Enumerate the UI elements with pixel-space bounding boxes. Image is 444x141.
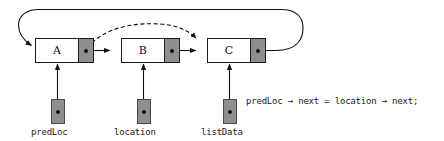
variable-location-label: location [114, 127, 156, 137]
node-a-pointer-field[interactable] [78, 39, 93, 62]
variable-predloc-box[interactable] [51, 99, 65, 124]
node-a-data: A [36, 39, 78, 62]
node-a[interactable]: A [35, 38, 94, 63]
node-b[interactable]: B [121, 38, 180, 63]
variable-location-box[interactable] [137, 99, 151, 124]
node-b-pointer-field[interactable] [164, 39, 179, 62]
code-expression: predLoc → next = location → next; [246, 96, 418, 106]
variable-listdata-box[interactable] [223, 99, 237, 124]
variable-predloc-dot [56, 110, 60, 114]
diagram-canvas: A B C predLoc location listData predLoc … [0, 0, 444, 141]
node-c-pointer-field[interactable] [250, 39, 265, 62]
node-c[interactable]: C [207, 38, 266, 63]
variable-location-dot [142, 110, 146, 114]
variable-listdata-label: listData [201, 127, 243, 137]
node-c-pointer-dot [256, 49, 260, 53]
node-a-pointer-dot [84, 49, 88, 53]
node-c-data: C [208, 39, 250, 62]
node-b-pointer-dot [170, 49, 174, 53]
variable-predloc-label: predLoc [31, 127, 68, 137]
variable-listdata-dot [228, 110, 232, 114]
node-b-data: B [122, 39, 164, 62]
